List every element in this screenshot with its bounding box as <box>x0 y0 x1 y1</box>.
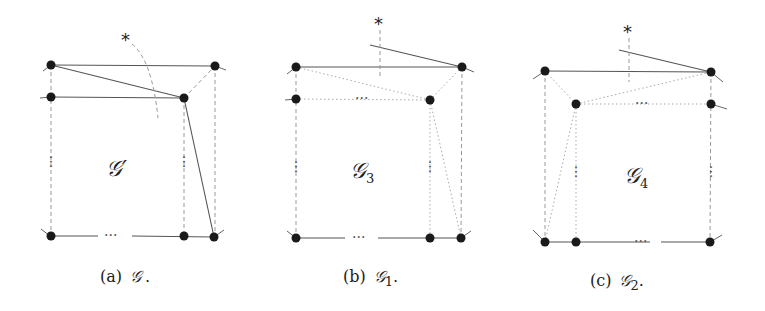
star-marker: * <box>623 21 632 42</box>
caption-c: (c) 𝒢2. <box>590 271 644 293</box>
node <box>541 67 550 76</box>
node <box>180 232 189 241</box>
vertical-ellipsis: ··· <box>176 155 192 168</box>
ellipsis: ··· <box>104 227 117 243</box>
node <box>458 63 467 72</box>
node <box>210 233 219 242</box>
edge-top <box>545 71 711 72</box>
panel-c: * ··· ··· ··· ··· 𝒢4 (c) 𝒢2. <box>533 21 727 293</box>
edge-second-row <box>51 97 184 98</box>
subgraph-label: 𝒢′ <box>106 156 127 181</box>
vertical-ellipsis: ··· <box>288 160 304 173</box>
panel-a: * ··· ··· ··· 𝒢′ (a) 𝒢 . <box>40 29 226 286</box>
panel-b: * ··· ··· ··· ··· 𝒢3 (b) 𝒢1. <box>285 13 474 289</box>
ellipsis: ··· <box>352 229 365 245</box>
edge-diag-dashed <box>184 66 215 98</box>
node <box>292 63 301 72</box>
node <box>707 68 716 77</box>
vertical-ellipsis: ··· <box>568 165 584 178</box>
vertical-ellipsis: ··· <box>703 165 719 178</box>
edge-dotted-up <box>430 67 462 100</box>
caption-b: (b) 𝒢1. <box>343 267 398 289</box>
node <box>211 62 220 71</box>
node <box>47 232 56 241</box>
vertical-ellipsis: ··· <box>43 155 59 168</box>
edge-top <box>51 65 215 66</box>
node <box>292 234 301 243</box>
node <box>572 100 581 109</box>
node <box>180 94 189 103</box>
edge-top-diagonal <box>51 65 184 98</box>
edge-bottom-right <box>132 236 214 237</box>
node <box>47 61 56 70</box>
ellipsis: ··· <box>355 90 368 106</box>
star-marker: * <box>121 29 130 50</box>
node <box>292 95 301 104</box>
edge-cut-diagonal <box>370 45 462 67</box>
node <box>426 234 435 243</box>
ellipsis: ··· <box>634 233 647 249</box>
caption-a: (a) 𝒢 . <box>100 267 150 286</box>
node <box>707 100 716 109</box>
edge-dotted-down <box>545 71 576 104</box>
node <box>541 238 550 247</box>
node <box>572 238 581 247</box>
edge-cut-diagonal <box>619 50 711 72</box>
subgraph-label: 𝒢3 <box>350 158 374 186</box>
star-marker: * <box>374 13 383 34</box>
figure: * ··· ··· ··· 𝒢′ (a) 𝒢 . <box>0 0 765 311</box>
edge-right-vertical <box>710 72 711 242</box>
node <box>426 96 435 105</box>
vertical-ellipsis: ··· <box>422 160 438 173</box>
cut-curve <box>132 44 158 118</box>
edge-right-vertical <box>461 67 462 238</box>
node <box>457 234 466 243</box>
subgraph-label: 𝒢4 <box>624 163 648 191</box>
ellipsis: ··· <box>635 95 648 111</box>
node <box>47 93 56 102</box>
node <box>706 238 715 247</box>
